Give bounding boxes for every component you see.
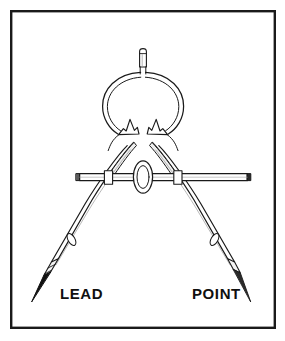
point-label: POINT [192, 285, 241, 302]
lead-label: LEAD [60, 285, 103, 302]
cross-bar-left-collar [104, 171, 112, 184]
cross-bar-right-cap [247, 174, 250, 181]
compass-figure: LEAD POINT [0, 0, 285, 341]
cross-bar-right-collar [174, 171, 182, 184]
cross-bar-left-cap [76, 174, 79, 181]
top-knob [140, 49, 147, 67]
compass-diagram: LEAD POINT [0, 0, 285, 341]
thumb-nut [133, 161, 152, 193]
